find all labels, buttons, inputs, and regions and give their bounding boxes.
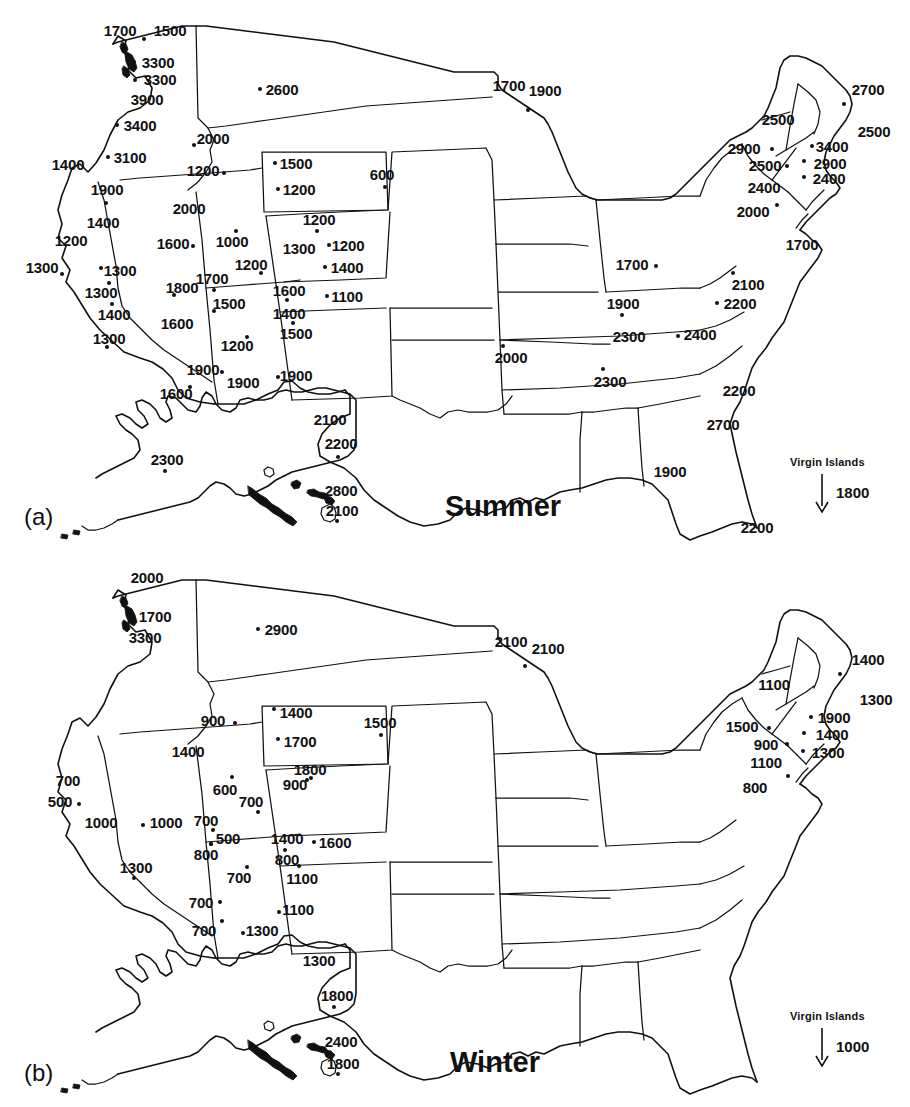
station-dot [220,919,224,923]
station-value-label: 2400 [748,180,781,195]
station-dot [601,367,605,371]
station-value-label: 1300 [85,285,118,300]
station-dot [801,749,805,753]
station-dot [523,664,527,668]
station-dot [218,900,222,904]
station-dot [230,775,234,779]
station-dot [654,264,658,268]
panel-tag-a: (a) [24,503,53,531]
station-value-label: 700 [192,923,216,938]
station-dot [315,229,319,233]
station-dot [336,1072,340,1076]
station-dot [192,143,196,147]
station-value-label: 1400 [87,215,120,230]
station-value-label: 2400 [325,1034,358,1049]
station-value-label: 1200 [235,257,268,272]
station-dot [256,627,260,631]
station-value-label: 1900 [529,83,562,98]
station-dot [60,272,64,276]
station-value-label: 2000 [495,350,528,365]
station-value-label: 1400 [52,157,85,172]
station-value-label: 1400 [331,260,364,275]
station-value-label: 1300 [812,745,845,760]
station-value-label: 1800 [327,1056,360,1071]
station-value-label: 1700 [104,23,137,38]
station-value-label: 3900 [131,92,164,107]
station-value-label: 1500 [726,719,759,734]
station-value-label: 1600 [319,835,352,850]
station-dot [142,37,146,41]
station-dot [838,672,842,676]
station-value-label: 800 [743,780,767,795]
station-value-label: 1300 [283,241,316,256]
panel-summer-map: Summer (a) Virgin Islands 1800 170015003… [0,0,910,553]
station-dot [212,288,216,292]
station-dot [327,243,331,247]
season-label-winter: Winter [450,1046,540,1079]
us-map-outline-summer [0,0,910,553]
station-value-label: 1200 [303,212,336,227]
station-value-label: 2400 [813,171,846,186]
station-value-label: 1400 [271,831,304,846]
station-dot [241,931,245,935]
station-dot [115,123,119,127]
station-value-label: 500 [216,831,240,846]
panel-winter-map: Winter (b) Virgin Islands 1000 200017003… [0,554,910,1107]
station-dot [785,742,789,746]
station-dot [312,840,316,844]
station-value-label: 700 [194,813,218,828]
station-value-label: 3400 [816,139,849,154]
station-value-label: 1100 [331,289,363,304]
station-value-label: 1200 [332,238,365,253]
station-value-label: 1600 [160,386,193,401]
station-dot [106,155,110,159]
station-value-label: 900 [754,737,778,752]
station-value-label: 900 [201,713,225,728]
station-value-label: 1200 [283,182,316,197]
station-dot [715,301,719,305]
station-value-label: 2100 [314,412,347,427]
virgin-islands-value-winter: 1000 [836,1038,869,1055]
station-value-label: 1300 [93,331,126,346]
station-value-label: 500 [48,794,72,809]
station-value-label: 2500 [858,124,891,139]
station-value-label: 1000 [216,234,249,249]
station-value-label: 1400 [852,652,885,667]
station-dot [258,87,262,91]
station-dot [731,271,735,275]
station-value-label: 1100 [750,755,782,770]
station-dot [383,185,387,189]
figure-container: Summer (a) Virgin Islands 1800 170015003… [0,0,910,1107]
station-value-label: 1300 [120,860,153,875]
station-value-label: 1300 [104,263,137,278]
panel-tag-b: (b) [24,1059,53,1087]
station-dot [132,876,136,880]
station-dot [785,164,789,168]
station-value-label: 2800 [325,483,358,498]
station-value-label: 2000 [197,131,230,146]
station-dot [191,244,195,248]
station-value-label: 1400 [280,705,313,720]
station-value-label: 2700 [707,417,740,432]
station-dot [163,469,167,473]
station-value-label: 3300 [142,55,175,70]
station-value-label: 2600 [266,82,299,97]
station-dot [132,60,136,64]
station-dot [336,455,340,459]
station-dot [285,298,289,302]
station-value-label: 1900 [91,182,124,197]
station-value-label: 2300 [613,329,646,344]
station-value-label: 1500 [154,23,187,38]
station-dot [297,864,301,868]
station-value-label: 1500 [364,715,397,730]
station-value-label: 2000 [737,204,770,219]
station-value-label: 2200 [325,436,358,451]
station-dot [809,715,813,719]
station-value-label: 1900 [818,710,851,725]
station-value-label: 800 [194,847,218,862]
station-dot [99,266,103,270]
station-value-label: 1900 [607,296,640,311]
station-value-label: 1100 [286,871,318,886]
station-value-label: 1900 [654,464,687,479]
station-dot [309,776,313,780]
